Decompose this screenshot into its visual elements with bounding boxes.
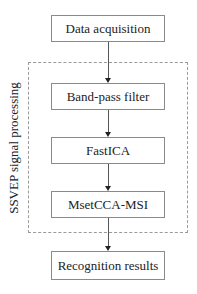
- step-band-pass-filter: Band-pass filter: [51, 83, 165, 110]
- connector-line: [108, 42, 109, 78]
- connector-line: [108, 218, 109, 246]
- connector-line: [108, 164, 109, 186]
- connector-line: [108, 110, 109, 132]
- step-fastica: FastICA: [51, 137, 165, 164]
- step-msetcca-msi: MsetCCA-MSI: [51, 191, 165, 218]
- step-data-acquisition: Data acquisition: [51, 15, 165, 42]
- step-recognition-results: Recognition results: [51, 251, 165, 280]
- group-label: SSVEP signal processing: [6, 82, 22, 214]
